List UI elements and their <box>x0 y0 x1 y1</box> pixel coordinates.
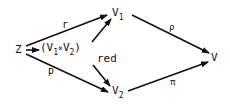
edge-label-pi-text: π <box>170 77 175 87</box>
product-mid: V <box>63 41 70 54</box>
edge-label-p-text: p <box>48 65 54 76</box>
edge-label-r: r <box>62 20 68 30</box>
edge-label-pi: π <box>170 78 175 87</box>
arrow-z-to-v2 <box>26 54 108 92</box>
edge-label-r-text: r <box>62 19 68 30</box>
product-close: ) <box>74 41 81 54</box>
arrow-product-to-v2 <box>93 65 110 86</box>
product-open: (V <box>40 41 53 54</box>
node-z: Z <box>15 44 22 55</box>
node-v1-sub: 1 <box>119 13 124 22</box>
product-sub1: 1 <box>53 48 58 57</box>
node-v2-sub: 2 <box>119 91 124 100</box>
node-product-reduced: (V1×V2) <box>40 42 81 53</box>
node-v: V <box>211 52 218 63</box>
edge-label-p: p <box>48 66 54 76</box>
node-v1: V1 <box>112 7 123 18</box>
arrow-v1-to-v <box>132 15 209 53</box>
product-sub2: 2 <box>70 48 75 57</box>
node-v2-label: V <box>112 84 119 97</box>
node-v2: V2 <box>112 85 123 96</box>
node-v-label: V <box>211 51 218 64</box>
edge-label-rho-text: ρ <box>169 22 174 32</box>
arrow-v2-to-v <box>128 62 208 91</box>
commutative-diagram: Z (V1×V2) red V1 V2 V r p ρ π <box>0 0 230 111</box>
node-v1-label: V <box>112 6 119 19</box>
edge-label-rho: ρ <box>169 23 174 32</box>
node-z-label: Z <box>15 43 22 56</box>
product-suffix: red <box>97 52 117 65</box>
arrow-product-to-v1 <box>92 19 111 42</box>
product-suffix-red: red <box>97 53 117 64</box>
